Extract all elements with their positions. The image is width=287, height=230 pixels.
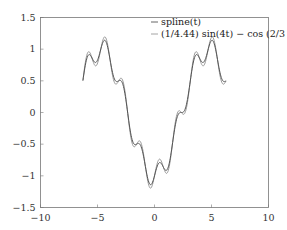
- svg-text:0.5: 0.5: [20, 75, 35, 86]
- axis-ticks: −10−505101.510.50−0.5−1−1.5: [12, 12, 274, 223]
- svg-text:−1.5: −1.5: [12, 202, 35, 213]
- plot-frame: [41, 18, 269, 208]
- chart: −10−505101.510.50−0.5−1−1.5 spline(t) (1…: [0, 0, 287, 230]
- svg-text:−0.5: −0.5: [12, 138, 35, 149]
- svg-text:1.5: 1.5: [20, 12, 35, 23]
- svg-text:0: 0: [29, 107, 35, 118]
- svg-text:−1: −1: [21, 170, 35, 181]
- svg-text:1: 1: [29, 43, 35, 54]
- curves: [83, 37, 226, 188]
- legend: spline(t) (1/4.44) sin(4t) − cos (2/3 t): [151, 16, 287, 39]
- legend-entry-1: spline(t): [161, 16, 201, 27]
- legend-entry-2: (1/4.44) sin(4t) − cos (2/3 t): [161, 28, 287, 39]
- svg-text:−10: −10: [30, 212, 50, 223]
- svg-text:5: 5: [208, 212, 214, 223]
- svg-text:0: 0: [151, 212, 157, 223]
- svg-text:10: 10: [262, 212, 274, 223]
- svg-text:−5: −5: [90, 212, 104, 223]
